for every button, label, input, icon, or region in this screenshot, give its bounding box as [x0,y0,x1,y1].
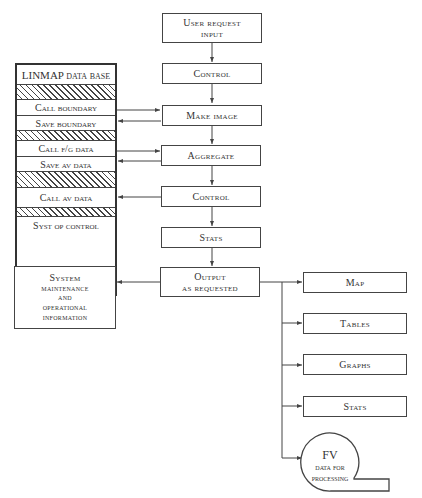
make-image-label: Make image [186,110,238,122]
aggregate-box: Aggregate [161,145,261,166]
graphs-box: Graphs [303,354,407,375]
maintenance-line5: information [43,313,88,323]
db-row-save-boundary: Save boundary [17,116,115,131]
db-row-call-av-data: Call av data [17,188,115,208]
stats-box: Stats [161,227,261,248]
map-box: Map [303,272,407,293]
db-row-save-av-data: Save av data [17,157,115,172]
fv-label: FV data for processing [300,448,360,483]
db-row-call-fg-data: Call f/g data [17,141,115,157]
map-label: Map [346,277,365,289]
hatched-separator [17,131,115,141]
user-request-input-box: User request input [162,13,262,43]
database-title: LINMAP data base [17,65,115,85]
output-box: Output as requested [160,267,260,297]
control-label-2: Control [192,191,229,203]
linmap-database: LINMAP data base Call boundary Save boun… [15,63,117,296]
control-box-2: Control [161,186,261,207]
hatched-separator [17,85,115,100]
control-label-1: Control [193,68,230,80]
output-line2: as requested [182,282,238,294]
graphs-label: Graphs [339,359,371,371]
hatched-separator [17,172,115,188]
fv-title: FV [300,448,360,462]
stats-output-label: Stats [343,401,366,413]
tables-label: Tables [340,318,370,330]
make-image-box: Make image [162,105,262,126]
maintenance-line1: System [49,272,80,284]
user-request-line1: User request [183,17,241,29]
stats-label: Stats [199,232,222,244]
db-row-call-boundary: Call boundary [17,100,115,116]
system-maintenance-box: System maintenance and operational infor… [14,266,116,329]
control-box-1: Control [162,63,262,84]
aggregate-label: Aggregate [188,150,235,162]
fv-line2: processing [312,473,349,483]
user-request-line2: input [201,28,223,40]
output-line1: Output [194,271,226,283]
hatched-separator [17,208,115,217]
tables-box: Tables [303,313,407,334]
fv-line1: data for [315,462,344,472]
stats-output-box: Stats [303,396,407,417]
